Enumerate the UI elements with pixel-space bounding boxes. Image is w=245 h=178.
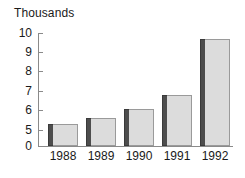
y-tick-mark-5 (38, 130, 43, 131)
y-tick-mark-8 (38, 71, 43, 72)
x-axis-line (38, 146, 233, 147)
bar-1990[interactable] (129, 109, 154, 146)
x-tick-label-1988: 1988 (45, 150, 81, 162)
bar-1988[interactable] (53, 124, 78, 146)
y-tick-label-10: 10 (10, 27, 32, 39)
bar-chart: Thousands 10 9 8 7 6 5 0 1988 1989 19 (0, 0, 245, 178)
plot-area: 10 9 8 7 6 5 0 1988 1989 1990 1991 1992 (0, 0, 245, 178)
x-tick-label-1989: 1989 (83, 150, 119, 162)
bar-1992[interactable] (205, 39, 230, 146)
y-tick-label-5: 5 (10, 124, 32, 136)
y-tick-label-8: 8 (10, 65, 32, 77)
bar-1989[interactable] (91, 118, 116, 146)
y-tick-label-9: 9 (10, 46, 32, 58)
y-tick-label-0: 0 (10, 140, 32, 152)
x-tick-label-1990: 1990 (121, 150, 157, 162)
x-tick-label-1992: 1992 (197, 150, 233, 162)
bar-1991[interactable] (167, 95, 192, 146)
y-tick-mark-6 (38, 110, 43, 111)
y-tick-mark-10 (38, 33, 43, 34)
y-tick-mark-9 (38, 52, 43, 53)
y-tick-label-6: 6 (10, 104, 32, 116)
y-tick-label-7: 7 (10, 85, 32, 97)
x-tick-label-1991: 1991 (159, 150, 195, 162)
y-tick-mark-7 (38, 91, 43, 92)
